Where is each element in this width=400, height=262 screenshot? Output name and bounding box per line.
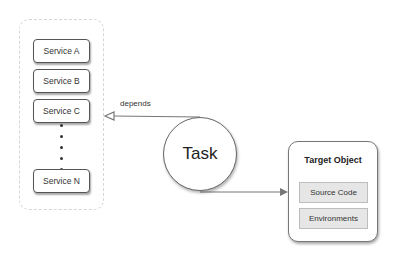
depends-edge: [113, 116, 200, 117]
target-object-title: Target Object: [289, 155, 377, 165]
depends-label: depends: [120, 99, 151, 108]
environments-item[interactable]: Environments: [299, 208, 368, 229]
target-object-node[interactable]: Target Object Source Code Environments: [288, 141, 378, 242]
source-code-item[interactable]: Source Code: [299, 182, 368, 203]
open-arrowhead-icon: [105, 112, 114, 120]
task-node[interactable]: Task: [163, 117, 237, 191]
filled-arrowhead-icon: [280, 188, 288, 196]
task-label: Task: [183, 144, 218, 164]
